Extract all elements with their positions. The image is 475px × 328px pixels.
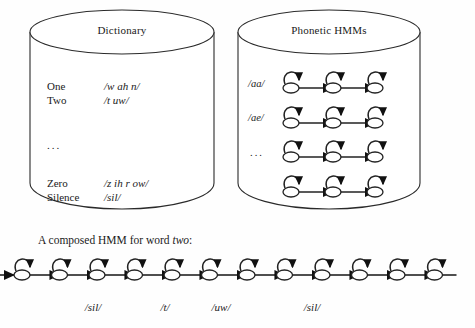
figure-canvas: Dictionary One /w ah n/ Two /t uw/ ... Z… (0, 0, 475, 328)
composed-segment-label-t: /t/ (140, 301, 190, 313)
composed-segment-label-sil-1: /sil/ (68, 301, 118, 313)
composed-segment-label-uw: /uw/ (196, 301, 246, 313)
composed-hmm-chain (0, 0, 475, 328)
composed-segment-label-sil-2: /sil/ (287, 301, 337, 313)
